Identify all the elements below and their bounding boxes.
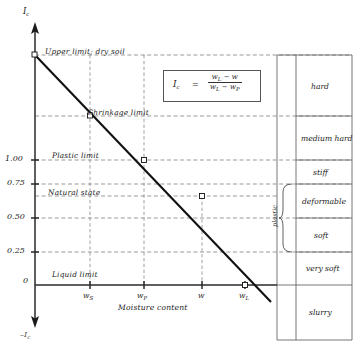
category-stiff: stiff xyxy=(313,168,328,177)
point-upper-limit xyxy=(32,52,37,57)
point-plastic-limit xyxy=(142,158,147,163)
y-tick-label-0: 0 xyxy=(23,276,28,285)
y-axis-label-bottom: -Ic–Ic xyxy=(20,330,30,340)
formula-box: Ic = wL − w wL − wP xyxy=(163,70,261,102)
y-tick-label-050: 0.50 xyxy=(7,212,25,221)
category-soft: soft xyxy=(314,231,328,240)
x-axis-title: Moisture content xyxy=(118,303,188,312)
formula-fraction: wL − w wL − wP xyxy=(208,74,242,92)
plastic-brace-label: plastic xyxy=(271,205,279,227)
formula-lhs: Ic xyxy=(173,79,180,90)
annotation-liquid-limit: Liquid limit xyxy=(52,270,98,279)
category-deformable: deformable xyxy=(302,197,346,206)
annotation-natural-state: Natural state xyxy=(48,188,100,197)
annotation-shrinkage-limit: Shrinkage limit xyxy=(88,108,149,117)
consistency-index-chart: IcIc -Ic–Ic 1.00 0.75 0.50 0.25 0 wS wP … xyxy=(0,0,362,345)
annotation-plastic-limit: Plastic limit xyxy=(52,151,99,160)
y-tick-label-025: 0.25 xyxy=(7,246,25,255)
x-tick-label-w: w xyxy=(198,291,204,300)
formula-numerator: wL − w xyxy=(208,74,242,83)
point-natural-state xyxy=(200,194,205,199)
category-hard: hard xyxy=(311,82,329,91)
x-tick-label-wp: wP xyxy=(137,291,147,301)
y-axis-label-top: IcIc xyxy=(23,6,29,17)
y-tick-label-075: 0.75 xyxy=(7,178,25,187)
formula-equals: = xyxy=(192,80,199,89)
y-tick-label-100: 1.00 xyxy=(5,154,23,163)
point-liquid-limit xyxy=(243,283,248,288)
annotation-upper-limit: Upper limit; dry soil xyxy=(45,47,125,56)
x-tick-label-wl: wL xyxy=(239,291,249,301)
category-medium-hard: medium hard xyxy=(301,134,352,143)
x-tick-label-ws: wS xyxy=(83,291,93,301)
category-very-soft: very soft xyxy=(306,264,339,273)
category-slurry: slurry xyxy=(309,308,332,317)
formula-denominator: wL − wP xyxy=(208,83,242,92)
